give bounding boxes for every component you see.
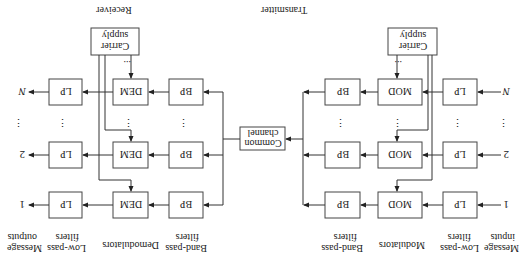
- label-modulators: Modulators: [379, 240, 425, 251]
- svg-text:filters: filters: [56, 232, 79, 243]
- svg-text:Carrier: Carrier: [398, 41, 427, 52]
- svg-text:Common: Common: [244, 138, 281, 149]
- label-lowpass-filters: Low-pass: [440, 243, 479, 254]
- rx-column-labels: Band-pass filters Demodulators Low-pass …: [6, 232, 207, 254]
- label-message-inputs: Message: [483, 243, 519, 254]
- rx-row-1: BP DEM LP 1: [20, 192, 224, 218]
- svg-text:...: ...: [124, 59, 132, 70]
- svg-text:BP: BP: [179, 149, 192, 160]
- svg-text:BP: BP: [336, 149, 349, 160]
- tx-row-n: N LP MOD BP: [304, 79, 511, 105]
- svg-text:BP: BP: [336, 86, 349, 97]
- svg-text:Carrier: Carrier: [100, 41, 129, 52]
- svg-text:LP: LP: [454, 86, 466, 97]
- svg-text:LP: LP: [60, 86, 72, 97]
- svg-text:⋮: ⋮: [452, 117, 463, 129]
- svg-text:MOD: MOD: [388, 149, 411, 160]
- label-message-outputs: Message: [6, 243, 42, 254]
- receiver-title: Receiver: [96, 5, 132, 16]
- svg-text:supply: supply: [400, 30, 427, 41]
- svg-text:⋮: ⋮: [392, 117, 403, 129]
- tx-row-1: 1 LP MOD BP: [304, 192, 509, 218]
- svg-text:N: N: [18, 86, 27, 98]
- rx-row-2: BP DEM LP 2: [20, 142, 224, 168]
- tx-column-labels: Message inputs Low-pass filters Modulato…: [321, 232, 519, 254]
- svg-text:⋮: ⋮: [498, 117, 509, 129]
- svg-text:2: 2: [20, 149, 26, 161]
- tx-row-2: 2 LP MOD BP: [304, 142, 509, 168]
- svg-text:BP: BP: [179, 86, 192, 97]
- svg-text:LP: LP: [454, 199, 466, 210]
- label-demodulators: Demodulators: [102, 240, 159, 251]
- svg-text:outputs: outputs: [7, 232, 37, 243]
- diagram-canvas: Message inputs Low-pass filters Modulato…: [0, 0, 529, 257]
- svg-text:filters: filters: [334, 232, 357, 243]
- svg-text:⋮: ⋮: [178, 117, 189, 129]
- svg-text:BP: BP: [179, 199, 192, 210]
- svg-text:BP: BP: [336, 199, 349, 210]
- svg-text:2: 2: [504, 149, 510, 161]
- rx-row-n: BP DEM LP N: [18, 79, 223, 105]
- svg-text:N: N: [502, 86, 511, 98]
- svg-text:...: ...: [395, 59, 403, 70]
- svg-text:DEM: DEM: [120, 149, 142, 160]
- svg-text:⋮: ⋮: [335, 117, 346, 129]
- svg-text:DEM: DEM: [120, 199, 142, 210]
- svg-text:MOD: MOD: [388, 199, 411, 210]
- rx-ellipses: ⋮ ⋮ ⋮ ⋮ ...: [13, 59, 189, 129]
- svg-text:supply: supply: [102, 30, 129, 41]
- svg-text:filters: filters: [448, 232, 471, 243]
- svg-text:filters: filters: [176, 232, 199, 243]
- fdm-block-diagram: Message inputs Low-pass filters Modulato…: [0, 0, 529, 257]
- input-label: 1: [504, 199, 510, 211]
- svg-text:channel: channel: [247, 128, 278, 139]
- svg-text:LP: LP: [454, 149, 466, 160]
- svg-text:MOD: MOD: [388, 86, 411, 97]
- label-bandpass-filters: Band-pass: [321, 243, 363, 254]
- output-label: 1: [20, 199, 26, 211]
- svg-text:DEM: DEM: [120, 86, 142, 97]
- label-rx-lowpass-filters: Low-pass: [47, 243, 86, 254]
- svg-text:⋮: ⋮: [13, 117, 24, 129]
- label-rx-bandpass-filters: Band-pass: [165, 243, 207, 254]
- svg-text:LP: LP: [60, 199, 72, 210]
- svg-text:⋮: ⋮: [57, 117, 68, 129]
- svg-text:⋮: ⋮: [123, 117, 134, 129]
- transmitter-title: Transmitter: [260, 5, 307, 16]
- svg-text:LP: LP: [60, 149, 72, 160]
- svg-text:inputs: inputs: [490, 232, 515, 243]
